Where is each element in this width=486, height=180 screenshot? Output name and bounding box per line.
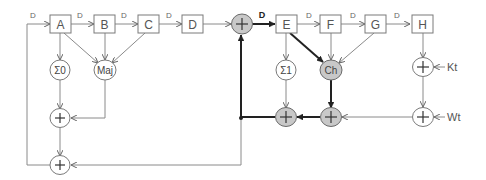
ch-node: Ch (320, 60, 342, 80)
sigma0-node: Σ0 (50, 60, 70, 80)
sigma1-node: Σ1 (276, 60, 296, 80)
delay-label-g: D (350, 11, 356, 20)
adder-wt (413, 108, 434, 127)
feedback-line-left (27, 148, 50, 165)
adder-gray-ch (321, 108, 342, 127)
register-c: C (138, 15, 159, 33)
svg-text:D: D (188, 18, 197, 32)
register-b: B (94, 15, 115, 33)
register-h: H (412, 15, 433, 33)
svg-text:F: F (327, 18, 334, 32)
register-g: G (365, 15, 386, 33)
register-f: F (320, 15, 341, 33)
sha2-round-diagram: D D D D D D D D (0, 0, 486, 180)
kt-label: Kt (447, 61, 457, 73)
line-a-maj (64, 33, 98, 63)
svg-text:Ch: Ch (325, 65, 338, 76)
register-e: E (276, 15, 297, 33)
line-c-maj (112, 33, 145, 63)
register-a: A (50, 15, 71, 33)
delay-label-d: D (166, 11, 172, 20)
line-e-ch (290, 33, 323, 62)
adder-sigma0-maj (50, 109, 70, 128)
svg-text:A: A (56, 18, 64, 32)
svg-text:H: H (418, 18, 427, 32)
register-d: D (182, 15, 203, 33)
adder-kt (413, 58, 434, 77)
svg-text:Σ0: Σ0 (54, 65, 66, 76)
line-t1-adder2 (71, 118, 241, 165)
delay-label-c: D (121, 11, 127, 20)
line-g-ch (339, 33, 374, 63)
adder-new-a (50, 156, 70, 175)
svg-text:B: B (100, 18, 108, 32)
svg-text:Maj: Maj (97, 65, 113, 76)
svg-text:E: E (282, 18, 290, 32)
delay-label-e: D (259, 10, 266, 20)
delay-label-f: D (306, 11, 312, 20)
adder-gray-sigma1 (276, 108, 297, 127)
feedback-line-to-a (27, 24, 50, 148)
delay-label-b: D (77, 11, 83, 20)
delay-label-a: D (30, 11, 36, 20)
adder-top-gray (232, 14, 253, 34)
svg-text:G: G (371, 18, 380, 32)
delay-label-h: D (394, 11, 400, 20)
wt-label: Wt (447, 111, 460, 123)
maj-node: Maj (94, 60, 116, 80)
svg-text:Σ1: Σ1 (280, 65, 292, 76)
line-maj-adder (71, 80, 105, 118)
svg-text:C: C (144, 18, 153, 32)
